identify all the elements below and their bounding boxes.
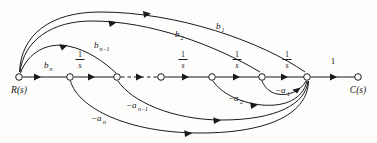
arrowhead-n1-n2 [88,74,95,81]
arc-b1 [20,12,306,72]
integrator-4-numerator: 1 [285,50,289,59]
arrowhead-n3-n4 [182,74,189,81]
gain-label-an-minus-1: −a n−1 [126,100,148,112]
label-anm1-subscript: n−1 [138,106,148,112]
arrowhead-arc-bn1 [59,44,67,50]
label-bnm1-base: b [94,40,99,50]
arrowhead-n4-n5 [233,74,240,81]
arrowhead-arc-b2 [108,20,116,27]
integrator-3-numerator: 1 [235,50,239,59]
gain-label-an: −a n [91,113,106,125]
node-1[interactable] [67,74,74,81]
label-bn-base: b [44,60,49,70]
gain-label-a2: −a 2 [228,93,243,105]
node-2[interactable] [114,74,121,81]
integrator-label-1: 1 s [76,50,85,70]
label-a1-base: −a [275,85,286,95]
arrowhead-arc-a2 [250,102,258,109]
label-anm1-base: −a [126,100,137,110]
signal-flow-graph-figure: R(s) C(s) b n b n−1 b 2 b 1 1 s 1 s [0,0,377,143]
node-output-cs[interactable] [355,74,362,81]
arrowhead-n5-n6 [281,74,288,81]
integrator-1-denominator: s [78,61,81,70]
integrator-label-3: 1 s [233,50,242,70]
arrowhead-arc-an1 [213,117,221,124]
label-bn-subscript: n [50,66,53,72]
arrowhead-arc-b1 [143,11,151,18]
label-b1-base: b [216,21,221,31]
label-a2-subscript: 2 [240,99,243,105]
signal-flow-graph-canvas: R(s) C(s) b n b n−1 b 2 b 1 1 s 1 s [0,0,377,143]
label-bnm1-subscript: n−1 [100,46,110,52]
label-an-subscript: n [103,119,106,125]
node-input-rs[interactable] [16,74,23,81]
gain-label-bn: b n [44,60,53,72]
label-output-cs: C(s) [350,85,366,96]
label-a2-base: −a [228,93,239,103]
integrator-1-numerator: 1 [78,50,82,59]
integrator-2-numerator: 1 [181,50,185,59]
integrator-2-denominator: s [181,61,184,70]
integrator-label-2: 1 s [179,50,188,70]
label-an-base: −a [91,113,102,123]
label-output-gain: 1 [331,56,336,66]
label-a1-subscript: 1 [287,91,290,97]
node-4[interactable] [209,74,216,81]
label-b2-subscript: 2 [181,35,184,41]
arrowhead-n2-n3 [136,74,143,81]
arrowhead-n0-n1 [34,74,41,81]
integrator-3-denominator: s [235,61,238,70]
integrator-label-4: 1 s [283,50,292,70]
arc-an [71,81,309,133]
integrator-4-denominator: s [285,61,288,70]
label-input-rs: R(s) [10,85,27,96]
gain-label-bn-minus-1: b n−1 [94,40,110,52]
node-5[interactable] [259,74,266,81]
gain-label-a1: −a 1 [275,85,290,97]
feedforward-arcs-group [20,11,306,73]
label-b1-subscript: 1 [222,27,225,33]
feedback-arcs-group [71,81,309,137]
node-6[interactable] [304,74,311,81]
gain-label-b2: b 2 [175,29,184,41]
label-b2-base: b [175,29,180,39]
gain-label-b1: b 1 [216,21,225,33]
arrowhead-arc-an [184,130,192,137]
arrowhead-n6-n7 [330,74,337,81]
node-3[interactable] [158,74,165,81]
